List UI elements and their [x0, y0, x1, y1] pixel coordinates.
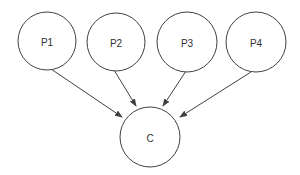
node-c: C [120, 107, 180, 167]
node-p2-label: P2 [110, 38, 123, 49]
edge-p1-c [51, 69, 122, 117]
diagram-container: P1 P2 P3 P4 C [0, 0, 300, 175]
node-p4-label: P4 [250, 38, 263, 49]
diagram-canvas: P1 P2 P3 P4 C [0, 0, 300, 175]
edge-p2-c [114, 70, 136, 106]
node-p3: P3 [157, 12, 217, 72]
node-c-label: C [146, 133, 153, 144]
edge-p4-c [180, 72, 251, 117]
node-p1: P1 [18, 12, 76, 70]
node-p2: P2 [87, 13, 145, 71]
node-p3-label: P3 [181, 38, 194, 49]
node-p1-label: P1 [41, 37, 54, 48]
node-p4: P4 [226, 12, 286, 72]
edge-p3-c [163, 71, 186, 106]
